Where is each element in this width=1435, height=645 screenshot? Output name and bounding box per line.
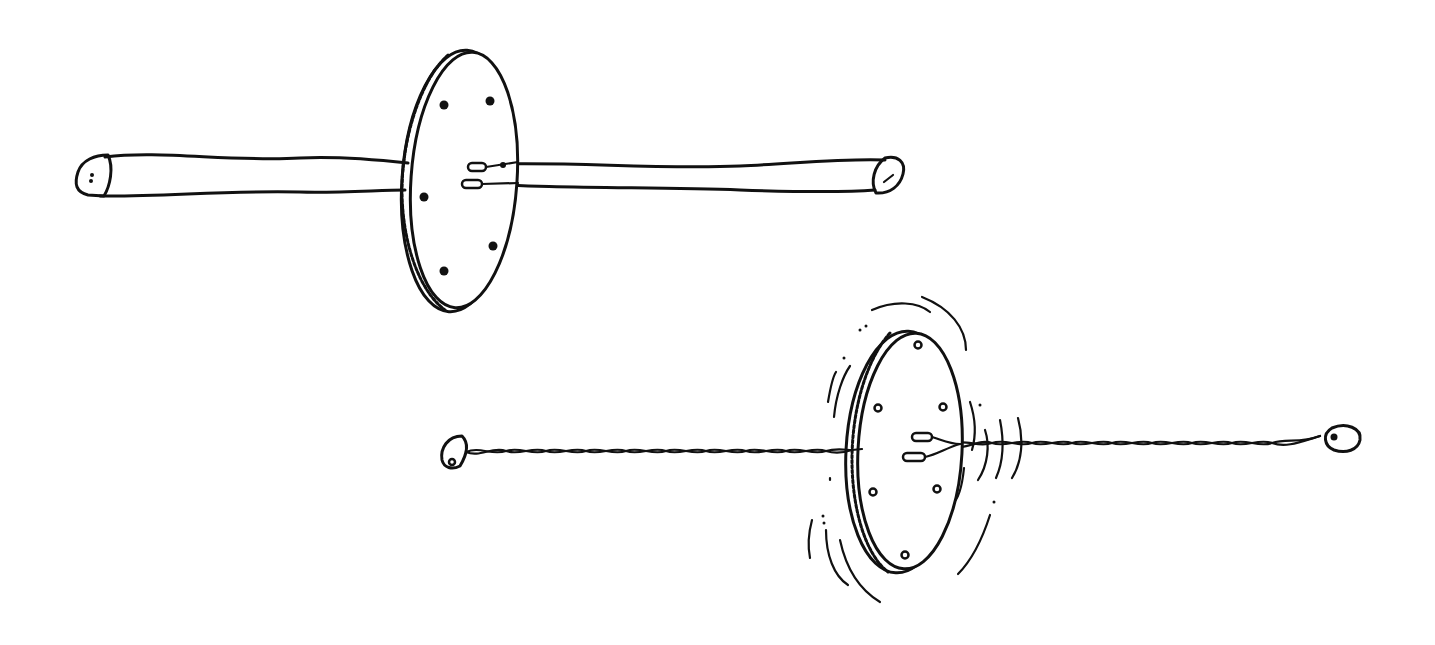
disc-hole [489, 242, 498, 251]
disc-hole [870, 489, 877, 496]
twisted-cord-right [950, 436, 1320, 447]
left-handle [442, 436, 467, 468]
whirligig-at-rest [76, 46, 904, 315]
left-handle [76, 155, 111, 196]
disc-hole [915, 342, 922, 349]
disc-hole [440, 267, 449, 276]
disc-hole [934, 486, 941, 493]
twisted-cord-left [466, 449, 852, 453]
loose-cord-right [465, 160, 885, 192]
disc-at-rest [393, 46, 526, 315]
cord-through-disc [852, 449, 862, 450]
disc-hole [486, 97, 495, 106]
right-handle [873, 157, 903, 193]
whirligig-spinning [442, 297, 1360, 602]
whirligig-illustration [0, 0, 1435, 645]
disc-hole [940, 404, 947, 411]
disc-spinning [840, 328, 968, 576]
disc-hole [875, 405, 882, 412]
disc-hole [902, 552, 909, 559]
disc-hole [420, 193, 429, 202]
right-handle [1325, 426, 1360, 452]
loose-cord-left [100, 155, 408, 196]
disc-hole [440, 101, 449, 110]
